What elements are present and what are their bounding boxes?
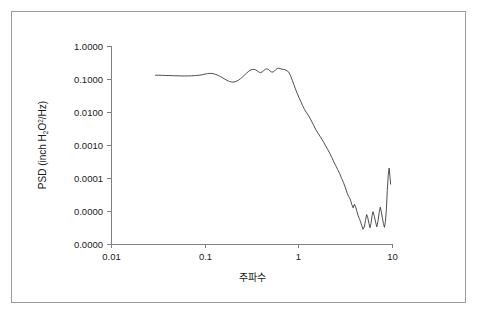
y-tick-label: 0.1000 [74,74,103,85]
y-axis-ticks [107,47,111,245]
x-tick-label: 0.01 [102,251,121,262]
x-tick-label: 0.1 [199,251,212,262]
svg-text:PSD (inch H2O2/Hz): PSD (inch H2O2/Hz) [37,101,50,189]
y-axis-title: PSD (inch H2O2/Hz) [37,101,50,189]
y-tick-label: 0.0010 [74,140,103,151]
x-tick-labels: 0.01 0.1 1 10 [102,251,398,262]
x-tick-label: 10 [387,251,398,262]
y-axis-title-prefix: PSD (inch H [37,134,48,189]
x-tick-label: 1 [296,251,301,262]
y-tick-label: 1.0000 [74,41,103,52]
y-tick-label: 0.0000 [74,206,103,217]
y-tick-label: 0.0000 [74,239,103,250]
psd-chart-svg: 1.0000 0.1000 0.0100 0.0010 0.0001 0.000… [0,0,479,316]
x-axis-title: 주파수 [239,272,266,283]
y-tick-labels: 1.0000 0.1000 0.0100 0.0010 0.0001 0.000… [74,41,103,250]
y-tick-label: 0.0001 [74,173,103,184]
y-axis-title-suffix: /Hz) [37,101,48,119]
psd-data-curve [156,68,391,229]
plot-area: 1.0000 0.1000 0.0100 0.0010 0.0001 0.000… [0,0,479,316]
chart-page: 1.0000 0.1000 0.0100 0.0010 0.0001 0.000… [0,0,479,316]
y-tick-label: 0.0100 [74,107,103,118]
